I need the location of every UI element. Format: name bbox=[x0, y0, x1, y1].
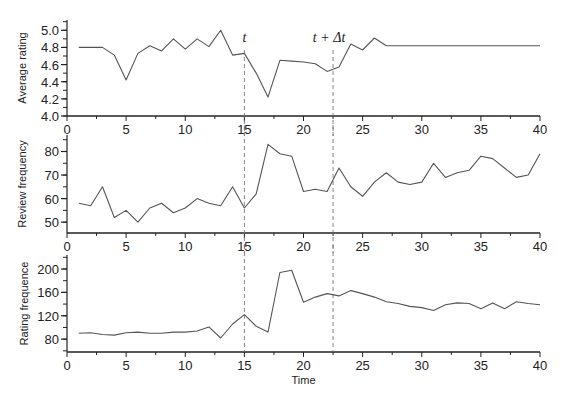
x-tick-label: 10 bbox=[178, 358, 192, 373]
x-tick-label: 30 bbox=[415, 239, 429, 254]
y-tick-label: 4.0 bbox=[41, 109, 59, 124]
x-tick-label: 35 bbox=[474, 358, 488, 373]
x-tick-label: 35 bbox=[474, 239, 488, 254]
x-axis-title: Time bbox=[291, 374, 315, 386]
x-tick-label: 25 bbox=[355, 239, 369, 254]
x-tick-label: 25 bbox=[355, 358, 369, 373]
data-series-line bbox=[79, 30, 540, 97]
y-tick-label: 120 bbox=[37, 309, 59, 324]
x-tick-label: 40 bbox=[533, 358, 547, 373]
x-tick-label: 5 bbox=[123, 239, 130, 254]
x-tick-label: 0 bbox=[63, 358, 70, 373]
y-tick-label: 4.6 bbox=[41, 58, 59, 73]
x-tick-label: 10 bbox=[178, 122, 192, 137]
x-tick-label: 20 bbox=[296, 239, 310, 254]
y-tick-label: 4.4 bbox=[41, 75, 59, 90]
x-tick-label: 40 bbox=[533, 239, 547, 254]
x-tick-label: 40 bbox=[533, 122, 547, 137]
x-tick-label: 0 bbox=[63, 239, 70, 254]
review-frequency-panel: 051015202530354050607080Review frequency bbox=[16, 125, 547, 254]
chart-figure: 05101520253035404.04.24.44.64.85.0Averag… bbox=[0, 0, 565, 403]
y-tick-label: 160 bbox=[37, 285, 59, 300]
y-tick-label: 80 bbox=[45, 144, 59, 159]
event-annotation-label: t bbox=[242, 30, 247, 45]
y-axis-title: Rating frequence bbox=[18, 262, 30, 346]
x-tick-label: 5 bbox=[123, 122, 130, 137]
y-axis-title: Average rating bbox=[16, 32, 28, 103]
y-tick-label: 60 bbox=[45, 192, 59, 207]
x-tick-label: 0 bbox=[63, 122, 70, 137]
y-tick-label: 5.0 bbox=[41, 23, 59, 38]
x-tick-label: 5 bbox=[123, 358, 130, 373]
x-tick-label: 25 bbox=[355, 122, 369, 137]
y-tick-label: 70 bbox=[45, 168, 59, 183]
y-tick-label: 80 bbox=[45, 332, 59, 347]
y-tick-label: 50 bbox=[45, 215, 59, 230]
x-tick-label: 15 bbox=[237, 358, 251, 373]
event-annotation-label: t + Δt bbox=[313, 30, 347, 45]
data-series-line bbox=[79, 144, 540, 222]
x-tick-label: 35 bbox=[474, 122, 488, 137]
x-tick-label: 30 bbox=[415, 122, 429, 137]
y-axis-title: Review frequency bbox=[16, 140, 28, 228]
x-tick-label: 30 bbox=[415, 358, 429, 373]
data-series-line bbox=[79, 270, 540, 338]
rating-frequence-panel: 051015202530354080120160200Rating freque… bbox=[18, 245, 547, 386]
average-rating-panel: 05101520253035404.04.24.44.64.85.0Averag… bbox=[16, 20, 547, 137]
y-tick-label: 4.8 bbox=[41, 40, 59, 55]
x-tick-label: 20 bbox=[296, 358, 310, 373]
y-tick-label: 4.2 bbox=[41, 92, 59, 107]
y-tick-label: 200 bbox=[37, 262, 59, 277]
x-tick-label: 20 bbox=[296, 122, 310, 137]
x-tick-label: 10 bbox=[178, 239, 192, 254]
